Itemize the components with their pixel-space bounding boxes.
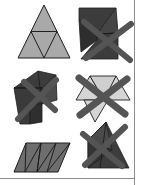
figure-root: Triangle net folding options Large subdi… [0, 0, 147, 185]
figure-background [0, 0, 147, 185]
geometry-figure-canvas [0, 0, 147, 185]
